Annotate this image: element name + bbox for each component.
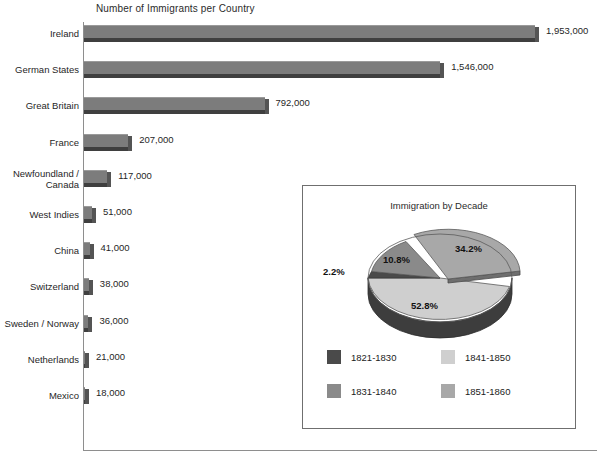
legend-swatch [441, 350, 455, 364]
pie-legend-item: 1851-1860 [441, 384, 555, 398]
bar [84, 25, 539, 42]
bar-category-label: German States [0, 64, 79, 75]
legend-swatch [327, 384, 341, 398]
bar-shadow-bottom [84, 183, 107, 187]
bar-face [84, 170, 107, 184]
pie-legend-item: 1821-1830 [327, 350, 441, 364]
bar-category-label: China [0, 245, 79, 256]
bar-face [84, 97, 265, 111]
bar-shadow-end [92, 208, 96, 223]
bar-category-label: Ireland [0, 28, 79, 39]
bar-value-label: 1,953,000 [546, 25, 588, 36]
bar-value-label: 1,546,000 [451, 61, 493, 72]
pie-label-1831-1840: 10.8% [383, 254, 410, 265]
bar-shadow-end [535, 27, 539, 42]
bar [84, 315, 92, 332]
bar-face [84, 206, 92, 220]
bar-category-label: Mexico [0, 390, 79, 401]
pie-graphic: 52.8% 34.2% 10.8% 2.2% [303, 216, 577, 341]
bar-shadow-bottom [84, 147, 128, 151]
bar-shadow-end [90, 244, 94, 259]
bar-value-label: 117,000 [118, 170, 152, 181]
bar-shadow-end [88, 317, 92, 332]
pie-legend: 1821-18301841-18501831-18401851-1860 [327, 350, 555, 398]
bar [84, 387, 89, 404]
bar-shadow-end [107, 172, 111, 187]
bar-value-label: 207,000 [139, 134, 173, 145]
legend-label: 1831-1840 [351, 386, 396, 397]
bar-shadow-bottom [84, 110, 265, 114]
bar-value-label: 38,000 [100, 278, 129, 289]
legend-label: 1851-1860 [465, 386, 510, 397]
bar-value-label: 41,000 [101, 242, 130, 253]
pie-chart-title: Immigration by Decade [303, 200, 575, 211]
bar-value-label: 18,000 [96, 387, 125, 398]
bar-category-label: Switzerland [0, 281, 79, 292]
value-axis-line [83, 450, 597, 451]
bar-face [84, 25, 535, 39]
legend-swatch [441, 384, 455, 398]
bar-shadow-bottom [84, 38, 535, 42]
bar-shadow-end [89, 280, 93, 295]
bar-row: German States1,546,000 [0, 58, 603, 94]
bar-shadow-bottom [84, 219, 92, 223]
bar-category-label: Great Britain [0, 100, 79, 111]
bar [84, 134, 132, 151]
bar-category-label: France [0, 137, 79, 148]
pie-chart-inset: Immigration by Decade 52.8% [302, 185, 576, 429]
bar [84, 170, 111, 187]
bar-face [84, 61, 440, 75]
pie-legend-item: 1831-1840 [327, 384, 441, 398]
bar-shadow-bottom [84, 74, 440, 78]
bar [84, 242, 94, 259]
bar [84, 278, 93, 295]
bar [84, 351, 89, 368]
legend-label: 1841-1850 [465, 352, 510, 363]
pie-svg [303, 216, 577, 341]
bar-row: Great Britain792,000 [0, 94, 603, 130]
legend-swatch [327, 350, 341, 364]
bar-face [84, 134, 128, 148]
bar-category-label: Newfoundland / Canada [0, 168, 79, 190]
pie-label-1841-1850: 52.8% [411, 300, 438, 311]
bar-row: Ireland1,953,000 [0, 22, 603, 58]
bar-shadow-end [265, 99, 269, 114]
bar-category-label: Netherlands [0, 354, 79, 365]
bar-shadow-end [128, 136, 132, 151]
bar-row: France207,000 [0, 131, 603, 167]
pie-legend-item: 1841-1850 [441, 350, 555, 364]
bar-value-label: 51,000 [103, 206, 132, 217]
legend-label: 1821-1830 [351, 352, 396, 363]
pie-label-1821-1830: 2.2% [323, 266, 345, 277]
bar-category-label: Sweden / Norway [0, 318, 79, 329]
bar-category-label: West Indies [0, 209, 79, 220]
bar [84, 206, 96, 223]
bar [84, 61, 444, 78]
bar-value-label: 792,000 [276, 97, 310, 108]
bar-shadow-end [85, 353, 89, 368]
bar-shadow-end [85, 389, 89, 404]
bar-shadow-end [440, 63, 444, 78]
bar-value-label: 36,000 [99, 315, 128, 326]
page-title: Number of Immigrants per Country [96, 3, 255, 14]
pie-label-1851-1860: 34.2% [455, 243, 482, 254]
bar [84, 97, 269, 114]
bar-value-label: 21,000 [96, 351, 125, 362]
chart-page: Number of Immigrants per Country Ireland… [0, 0, 603, 472]
